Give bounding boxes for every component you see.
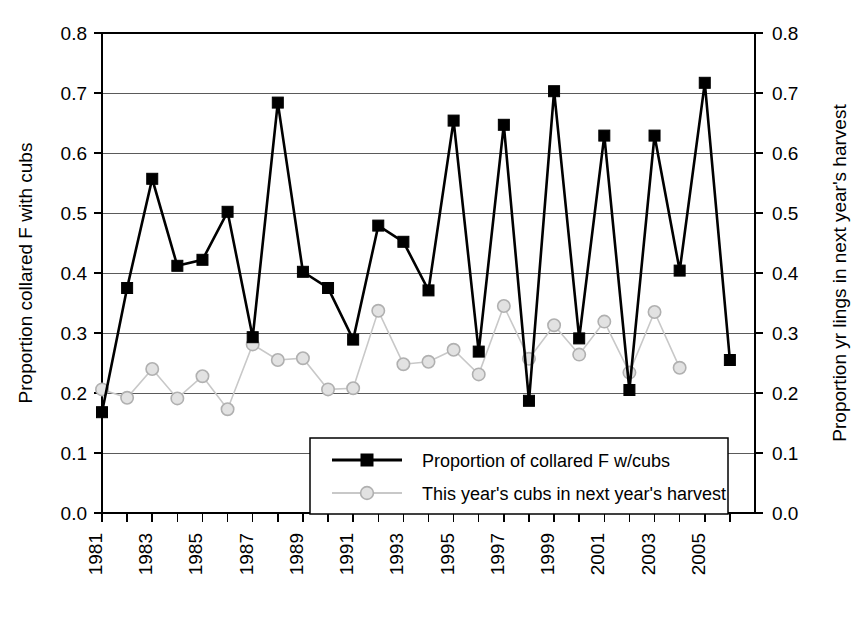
data-point [624,385,635,396]
series-cubs-in-harvest [96,300,686,416]
legend-label: This year's cubs in next year's harvest [422,484,726,504]
series-line [102,306,680,409]
data-point [322,383,334,395]
data-point [297,266,308,277]
left-axis-tick-labels: 0.80.70.60.50.40.30.20.10.0 [61,23,88,524]
data-point [574,333,585,344]
data-point [397,358,409,370]
data-point [196,370,208,382]
right-axis-tick-label: 0.5 [772,203,798,224]
series-collared-females [97,77,736,417]
left-axis-tick-label: 0.0 [61,503,87,524]
right-axis-title: Proportion yr lings in next year's harve… [829,104,850,442]
data-point [599,130,610,141]
data-point [122,283,133,294]
left-axis-tick-label: 0.3 [61,323,87,344]
data-point [398,236,409,247]
data-point [598,315,610,327]
data-point [171,392,183,404]
left-axis-tick-label: 0.7 [61,83,87,104]
legend-sample-marker [361,487,374,500]
x-axis-tick-label: 1997 [487,533,508,575]
data-point [373,220,384,231]
x-axis-tick-label: 2001 [587,533,608,575]
data-point [473,346,484,357]
left-axis-tick-label: 0.8 [61,23,87,44]
data-point [724,355,735,366]
data-point [674,265,685,276]
x-axis-tick-label: 2005 [688,533,709,575]
data-point [549,86,560,97]
data-point [523,395,534,406]
left-axis-tick-label: 0.1 [61,443,87,464]
x-axis-tick-label: 1989 [286,533,307,575]
right-axis-tick-label: 0.6 [772,143,798,164]
legend-label: Proportion of collared F w/cubs [422,451,670,471]
data-point [699,77,710,88]
data-point [247,332,258,343]
data-point [172,260,183,271]
data-point [448,115,459,126]
right-axis-tick-label: 0.8 [772,23,798,44]
data-point [147,173,158,184]
x-axis-tick-label: 1991 [336,533,357,575]
data-point [297,352,309,364]
data-point [272,97,283,108]
data-point [498,300,510,312]
left-axis-tick-label: 0.4 [61,263,88,284]
right-axis-tick-label: 0.7 [772,83,798,104]
data-point [498,119,509,130]
x-axis-tick-label: 1999 [537,533,558,575]
data-point [573,348,585,360]
data-point [197,254,208,265]
chart-legend: Proportion of collared F w/cubsThis year… [310,438,728,514]
x-axis-tick-label: 2003 [638,533,659,575]
left-axis-tick-label: 0.6 [61,143,87,164]
x-axis-tick-label: 1981 [85,533,106,575]
right-axis-tick-label: 0.0 [772,503,798,524]
x-axis-tick-label: 1985 [185,533,206,575]
data-point [447,344,459,356]
data-point [347,382,359,394]
data-point [648,306,660,318]
right-axis-tick-label: 0.1 [772,443,798,464]
x-axis-tick-label: 1993 [386,533,407,575]
legend-sample-marker [361,454,373,466]
x-axis-tick-label: 1987 [236,533,257,575]
left-axis-tick-label: 0.5 [61,203,87,224]
data-point [372,305,384,317]
data-point [272,354,284,366]
left-axis-title: Proportion collared F with cubs [15,143,36,404]
x-axis-tick-label: 1983 [135,533,156,575]
data-point [423,285,434,296]
left-axis-tick-label: 0.2 [61,383,87,404]
data-point [473,368,485,380]
right-axis-ticks [755,33,763,513]
data-point [649,130,660,141]
line-chart: 0.80.70.60.50.40.30.20.10.0 0.80.70.60.5… [0,0,864,624]
data-series-layer [96,77,736,417]
right-axis-tick-label: 0.3 [772,323,798,344]
data-point [323,283,334,294]
data-point [222,206,233,217]
right-axis-tick-labels: 0.80.70.60.50.40.30.20.10.0 [772,23,799,524]
data-point [121,392,133,404]
right-axis-tick-label: 0.2 [772,383,798,404]
x-axis-tick-labels: 1981198319851987198919911993199519971999… [85,533,709,575]
right-axis-tick-label: 0.4 [772,263,799,284]
left-axis-ticks [94,33,102,513]
data-point [422,356,434,368]
x-axis-tick-label: 1995 [437,533,458,575]
chart-container: 0.80.70.60.50.40.30.20.10.0 0.80.70.60.5… [0,0,864,624]
data-point [673,362,685,374]
data-point [97,407,108,418]
data-point [221,403,233,415]
data-point [146,363,158,375]
data-point [348,334,359,345]
data-point [548,319,560,331]
